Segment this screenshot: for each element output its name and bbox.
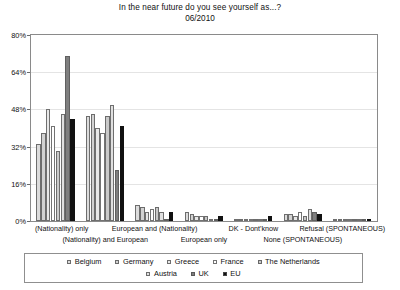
bar [41, 133, 45, 221]
y-axis-tick-mark [27, 147, 30, 148]
bar [91, 114, 95, 221]
bar-group [328, 35, 377, 221]
bar [209, 219, 213, 221]
bar [357, 219, 361, 221]
bar [185, 212, 189, 221]
bar [65, 56, 69, 221]
legend-swatch-icon [67, 260, 71, 264]
bar [258, 219, 262, 221]
legend-item[interactable]: Belgium [67, 257, 101, 266]
chart-container: In the near future do you see yourself a… [0, 0, 400, 290]
bar [312, 212, 316, 221]
y-axis-tick-mark [27, 35, 30, 36]
bar [164, 219, 168, 221]
bar [253, 219, 257, 221]
bar [61, 114, 65, 221]
legend: BelgiumGermanyGreeceFranceThe Netherland… [24, 253, 363, 283]
bar [110, 105, 114, 221]
bar [204, 216, 208, 221]
bar [338, 219, 342, 221]
bar-group [278, 35, 327, 221]
bar [288, 214, 292, 221]
y-axis-tick-mark [27, 72, 30, 73]
bar [120, 126, 124, 221]
bar [56, 151, 60, 221]
bar [150, 209, 154, 221]
bar-group [130, 35, 179, 221]
legend-label: France [221, 257, 244, 266]
bar-group [31, 35, 80, 221]
legend-item[interactable]: Greece [167, 257, 199, 266]
legend-label: EU [230, 269, 240, 278]
legend-swatch-icon [191, 272, 195, 276]
x-axis-tick-label: European only [181, 235, 227, 244]
legend-label: UK [198, 269, 208, 278]
legend-label: Germany [123, 257, 153, 266]
bar [362, 219, 366, 221]
legend-item[interactable]: The Netherlands [258, 257, 320, 266]
legend-item[interactable]: Austria [146, 269, 177, 278]
legend-label: Greece [175, 257, 199, 266]
x-axis-labels: (Nationality) only(Nationality) and Euro… [0, 224, 400, 248]
x-axis-tick-label: Refusal (SPONTANEOUS) [299, 224, 385, 233]
bar [95, 128, 99, 221]
bar [343, 219, 347, 221]
bar [140, 207, 144, 221]
legend-item[interactable]: France [213, 257, 244, 266]
bar-series-layer [31, 35, 377, 221]
legend-row-secondary: AustriaUKEU [25, 269, 362, 278]
bar [333, 219, 337, 221]
legend-swatch-icon [146, 272, 150, 276]
bar [268, 216, 272, 221]
y-axis-tick-mark [27, 184, 30, 185]
x-axis-tick-label: None (SPONTANEOUS) [264, 235, 343, 244]
bar [347, 219, 351, 221]
bar [199, 216, 203, 221]
bar [303, 216, 307, 221]
y-axis-tick-mark [27, 221, 30, 222]
bar [100, 133, 104, 221]
x-axis-tick-label: (Nationality) and European [62, 235, 148, 244]
bar [239, 219, 243, 221]
bar [169, 212, 173, 221]
y-axis-tick-label: 48% [0, 105, 26, 114]
legend-swatch-icon [167, 260, 171, 264]
y-axis-tick-label: 80% [0, 31, 26, 40]
legend-swatch-icon [258, 260, 262, 264]
bar [105, 116, 109, 221]
legend-label: Belgium [75, 257, 102, 266]
legend-swatch-icon [213, 260, 217, 264]
bar [308, 209, 312, 221]
legend-item[interactable]: EU [223, 269, 241, 278]
y-axis-tick-label: 16% [0, 179, 26, 188]
bar [284, 214, 288, 221]
legend-swatch-icon [223, 272, 227, 276]
bar [46, 109, 50, 221]
bar-group [229, 35, 278, 221]
bar [51, 126, 55, 221]
bar [194, 216, 198, 221]
bar-group [80, 35, 129, 221]
bar [263, 219, 267, 221]
x-axis-tick-label: DK - Dont'know [229, 224, 279, 233]
legend-row-primary: BelgiumGermanyGreeceFranceThe Netherland… [25, 257, 362, 266]
bar [234, 219, 238, 221]
legend-swatch-icon [115, 260, 119, 264]
bar [218, 216, 222, 221]
bar [190, 214, 194, 221]
bar [293, 216, 297, 221]
bar [145, 212, 149, 221]
bar [159, 212, 163, 221]
bar [86, 116, 90, 221]
x-axis-tick-label: (Nationality) only [35, 224, 89, 233]
legend-label: Austria [154, 269, 177, 278]
legend-item[interactable]: Germany [115, 257, 153, 266]
bar [115, 170, 119, 221]
legend-item[interactable]: UK [191, 269, 209, 278]
bar-group [179, 35, 228, 221]
bar [249, 219, 253, 221]
bar [214, 219, 218, 221]
bar [135, 205, 139, 221]
legend-label: The Netherlands [265, 257, 320, 266]
bar [317, 214, 321, 221]
